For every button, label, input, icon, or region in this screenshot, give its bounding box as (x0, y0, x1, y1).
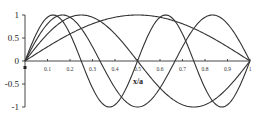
chart: 10.50-0.5-1 0.10.20.30.40.50.60.70.80.91… (0, 0, 258, 116)
x-tick-label: 0.7 (179, 66, 186, 72)
y-tick-label: 0.5 (8, 33, 20, 43)
x-tick-label: 0.8 (202, 66, 209, 72)
x-tick-label: 0.2 (67, 66, 74, 72)
y-tick-label: -1 (12, 102, 20, 112)
x-tick-label: 0.6 (157, 66, 164, 72)
y-axis: 10.50-0.5-1 (5, 10, 27, 112)
x-tick-label: 1 (249, 66, 252, 72)
curve-mode-1 (25, 15, 250, 61)
x-tick-label: 0.9 (224, 66, 231, 72)
x-tick-label: 0.3 (89, 66, 96, 72)
y-tick-label: 0 (15, 56, 20, 66)
x-axis-title: x/a (133, 77, 143, 86)
x-tick-label: 0.1 (44, 66, 51, 72)
x-tick-label: 0.4 (112, 66, 119, 72)
x-axis: 0.10.20.30.40.50.60.70.80.91 (25, 59, 252, 72)
y-tick-label: 1 (15, 10, 20, 20)
y-tick-label: -0.5 (5, 79, 20, 89)
origin-marker (24, 66, 27, 69)
